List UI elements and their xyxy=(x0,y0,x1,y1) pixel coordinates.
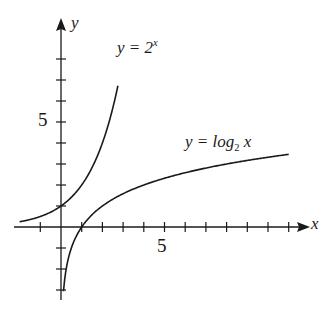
graph-exp-log xyxy=(0,0,323,309)
x-tick-label-5: 5 xyxy=(157,235,167,257)
log-curve-label: y = log2 x xyxy=(185,132,251,153)
y-axis-label: y xyxy=(71,13,79,33)
exp-label-sup: x xyxy=(153,37,158,48)
log-label-main: y = log xyxy=(185,132,234,151)
x-axis-label: x xyxy=(311,214,319,234)
y-tick-label-5: 5 xyxy=(38,109,48,131)
exp-label-main: y = 2 xyxy=(117,38,153,57)
log-label-tail: x xyxy=(240,132,252,151)
curve-logarithm xyxy=(63,154,288,291)
exp-curve-label: y = 2x xyxy=(117,37,158,58)
curve-exponential xyxy=(20,86,118,222)
